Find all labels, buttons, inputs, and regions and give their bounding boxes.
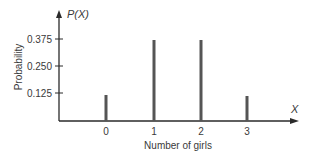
x-axis-title: Number of girls bbox=[144, 140, 212, 151]
y-tick-label: 0.375 bbox=[27, 34, 52, 45]
x-variable-label: X bbox=[290, 103, 299, 115]
probability-chart: 0.375 0.250 0.125 Probability P(X) 0 1 2… bbox=[0, 0, 311, 158]
y-tick-label: 0.125 bbox=[27, 88, 52, 99]
bars bbox=[106, 40, 247, 121]
y-tick-label: 0.250 bbox=[27, 61, 52, 72]
x-tick-label: 3 bbox=[244, 126, 250, 137]
y-axis-title: Probability bbox=[13, 44, 24, 91]
x-tick-label: 1 bbox=[151, 126, 157, 137]
x-tick-label: 0 bbox=[103, 126, 109, 137]
y-axis-arrow-icon bbox=[56, 10, 62, 18]
x-tick-label: 2 bbox=[198, 126, 204, 137]
x-axis-arrow-icon bbox=[290, 118, 299, 124]
y-variable-label: P(X) bbox=[67, 8, 89, 20]
